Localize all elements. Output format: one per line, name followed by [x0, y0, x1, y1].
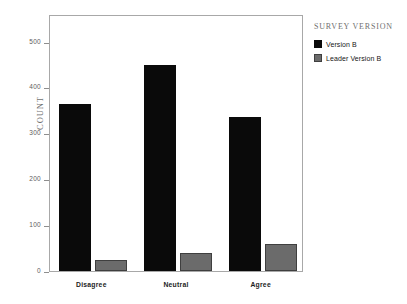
- legend-swatch-icon: [314, 54, 322, 62]
- legend-item[interactable]: Version B: [314, 39, 406, 49]
- y-axis-tick: 200: [0, 180, 49, 181]
- bar[interactable]: [59, 104, 91, 271]
- legend-item-label: Leader Version B: [326, 55, 381, 62]
- bar-chart-figure: Count 5004003002001000 DisagreeNeutralAg…: [0, 0, 407, 304]
- y-axis-tick-label: 300: [29, 129, 41, 136]
- y-axis-tick-label: 400: [29, 83, 41, 90]
- bar-group: [59, 16, 127, 271]
- bar[interactable]: [265, 244, 297, 271]
- plot-area: [49, 15, 303, 272]
- x-axis-label: Neutral: [134, 281, 219, 288]
- bar[interactable]: [180, 253, 212, 271]
- bar[interactable]: [144, 65, 176, 271]
- x-axis-label: Disagree: [49, 281, 134, 288]
- legend-title: Survey Version: [314, 22, 406, 31]
- legend-item[interactable]: Leader Version B: [314, 53, 406, 63]
- legend-swatch-icon: [314, 40, 322, 48]
- y-axis-tick-label: 0: [37, 267, 41, 274]
- legend-item-label: Version B: [326, 41, 357, 48]
- bar-group: [144, 16, 212, 271]
- y-axis-tick-label: 200: [29, 175, 41, 182]
- bar-group: [229, 16, 297, 271]
- bar[interactable]: [229, 117, 261, 271]
- x-axis-label: Agree: [218, 281, 303, 288]
- y-axis-tick-label: 100: [29, 221, 41, 228]
- bar[interactable]: [95, 260, 127, 271]
- legend: Survey Version Version BLeader Version B: [314, 22, 406, 67]
- y-axis-tick-label: 500: [29, 38, 41, 45]
- legend-items: Version BLeader Version B: [314, 39, 406, 63]
- y-axis-tick: 100: [0, 226, 49, 227]
- y-axis-tick: 300: [0, 134, 49, 135]
- y-axis-tick: 0: [0, 272, 49, 273]
- y-axis-tick: 400: [0, 88, 49, 89]
- y-axis-tick-mark: [44, 272, 49, 273]
- y-axis-tick: 500: [0, 43, 49, 44]
